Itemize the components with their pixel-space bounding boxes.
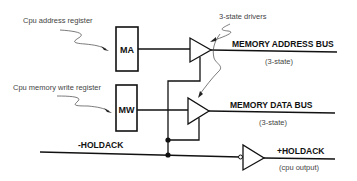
inverter-driver-icon xyxy=(243,145,264,170)
memory-data-bus-line xyxy=(209,111,335,113)
arrow-head-icon xyxy=(104,108,112,113)
arrow-head-icon xyxy=(210,37,216,42)
label-address-register: Cpu address register xyxy=(23,16,93,25)
holdack-output-label: +HOLDACK xyxy=(277,146,325,156)
memory-address-bus-label: MEMORY ADDRESS BUS xyxy=(232,39,334,49)
pointer-arrow-address-register xyxy=(60,30,106,49)
holdack-input-label: -HOLDACK xyxy=(78,140,124,150)
arrow-head-icon xyxy=(101,46,109,51)
register-mw-label: MW xyxy=(119,105,135,115)
holdack-input-line xyxy=(40,152,240,157)
pointer-arrow-write-register xyxy=(57,96,109,111)
holdack-output-line xyxy=(264,158,335,159)
enable-wire-data-driver xyxy=(168,118,199,140)
memory-address-bus-line xyxy=(211,50,337,52)
bus-driver-diagram: Cpu address register MA MEMORY ADDRESS B… xyxy=(0,0,357,181)
holdack-output-note: (cpu output) xyxy=(279,163,320,172)
label-3-state-drivers: 3-state drivers xyxy=(219,12,267,21)
inverter-bubble-icon xyxy=(239,155,243,159)
label-write-register: Cpu memory write register xyxy=(13,83,101,92)
memory-data-bus-label: MEMORY DATA BUS xyxy=(230,100,313,110)
arrow-head-icon xyxy=(198,91,203,98)
memory-data-bus-note: (3-state) xyxy=(259,118,287,127)
pointer-arrow-drivers-bottom xyxy=(200,34,221,94)
register-ma-label: MA xyxy=(120,45,134,55)
junction-dot xyxy=(165,137,170,142)
memory-address-bus-note: (3-state) xyxy=(265,57,293,66)
